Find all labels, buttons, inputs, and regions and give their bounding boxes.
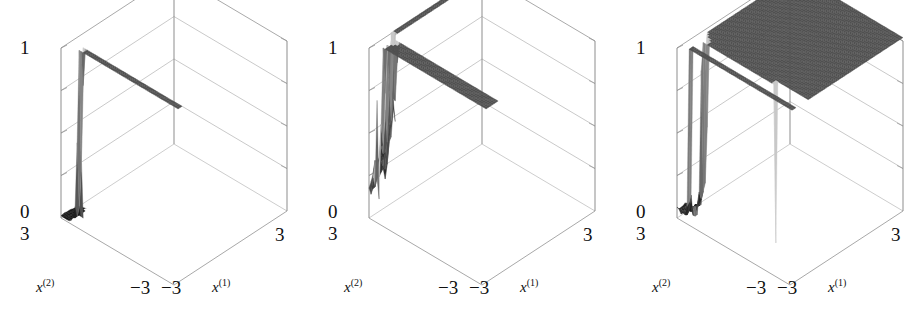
y-axis-far-tick-label: −3 — [746, 278, 766, 297]
surface-plot-canvas — [308, 0, 616, 323]
axis-box-front — [677, 211, 903, 285]
x1-axis-title: x(1) — [520, 280, 538, 295]
surface-panel-1: 1033−3−3x(2)x(1) — [0, 0, 308, 323]
x-axis-far-tick-label: 3 — [275, 225, 285, 244]
x-axis-near-tick-label: −3 — [469, 278, 489, 297]
axis-box-back — [369, 0, 595, 218]
axis-box-front — [369, 211, 595, 285]
x1-axis-title: x(1) — [828, 280, 846, 295]
y-axis-near-tick-label: 3 — [328, 224, 338, 243]
z-axis-min-tick-label: 0 — [20, 202, 30, 221]
surface-panel-2: 1033−3−3x(2)x(1) — [308, 0, 616, 323]
x-axis-far-tick-label: 3 — [891, 225, 901, 244]
y-axis-far-tick-label: −3 — [438, 278, 458, 297]
surface-panel-3: 1033−3−3x(2)x(1) — [616, 0, 924, 323]
surface-plot-canvas — [0, 0, 308, 323]
axis-box-back — [61, 0, 287, 218]
x2-axis-title: x(2) — [652, 280, 670, 295]
surface-mesh — [61, 0, 182, 223]
z-axis-max-tick-label: 1 — [328, 38, 338, 57]
x1-axis-title: x(1) — [212, 280, 230, 295]
x-axis-near-tick-label: −3 — [777, 278, 797, 297]
y-axis-near-tick-label: 3 — [636, 224, 646, 243]
y-axis-near-tick-label: 3 — [20, 224, 30, 243]
x2-axis-title: x(2) — [344, 280, 362, 295]
z-axis-max-tick-label: 1 — [636, 38, 646, 57]
x2-axis-title: x(2) — [36, 280, 54, 295]
surface-plot-figure: 1033−3−3x(2)x(1)1033−3−3x(2)x(1)1033−3−3… — [0, 0, 924, 323]
axis-box-front — [61, 211, 287, 285]
z-axis-min-tick-label: 0 — [328, 202, 338, 221]
y-axis-far-tick-label: −3 — [130, 278, 150, 297]
z-axis-max-tick-label: 1 — [20, 38, 30, 57]
x-axis-far-tick-label: 3 — [583, 225, 593, 244]
z-axis-min-tick-label: 0 — [636, 202, 646, 221]
x-axis-near-tick-label: −3 — [161, 278, 181, 297]
surface-plot-canvas — [616, 0, 924, 323]
surface-mesh — [369, 0, 498, 199]
